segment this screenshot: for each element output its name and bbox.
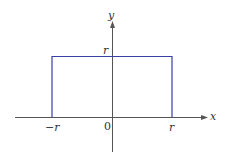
origin-label: 0 [104,121,111,132]
x-tick-label-neg-r: −r [45,122,59,133]
y-axis-label: y [108,10,114,21]
y-tick-label-r: r [103,45,108,56]
y-axis-arrow-icon [110,21,115,28]
diagram-canvas [0,0,227,158]
x-axis-arrow-icon [201,115,208,120]
x-axis-label: x [210,111,216,122]
x-tick-label-r: r [169,122,174,133]
